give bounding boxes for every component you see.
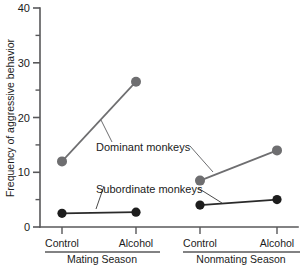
subordinate-point-nonmating-control (195, 201, 204, 210)
x-label-mating-control: Control (45, 237, 79, 249)
y-tick-label-40: 40 (18, 2, 30, 14)
annotation-subordinate-monkeys: Subordinate monkeys (96, 183, 203, 195)
aggressive-behavior-line-chart: 40 30 20 10 0 Frequency of aggressive be… (0, 0, 304, 266)
y-tick-label-30: 30 (18, 57, 30, 69)
subordinate-line-nonmating (200, 200, 277, 206)
annotation-dominant-monkeys: Dominant monkeys (96, 141, 191, 153)
leader-dominant-mating (101, 120, 112, 142)
subordinate-point-mating-control (57, 209, 66, 218)
subordinate-line-mating (62, 212, 136, 213)
dominant-line-nonmating (200, 150, 277, 180)
y-axis-title: Frequency of aggressive behavior (4, 38, 16, 197)
subordinate-point-mating-alcohol (131, 208, 140, 217)
x-label-nonmating-control: Control (183, 237, 217, 249)
dominant-point-mating-control (57, 156, 67, 166)
leader-dominant-nonmating (190, 146, 213, 172)
y-tick-label-0: 0 (24, 221, 30, 233)
y-tick-label-10: 10 (18, 166, 30, 178)
dominant-point-mating-alcohol (131, 77, 141, 87)
dominant-point-nonmating-alcohol (272, 145, 282, 155)
x-group-label-nonmating: Nonmating Season (196, 253, 285, 265)
y-tick-label-20: 20 (18, 112, 30, 124)
x-group-label-mating: Mating Season (67, 253, 137, 265)
chart-figure: 40 30 20 10 0 Frequency of aggressive be… (0, 0, 304, 266)
x-label-nonmating-alcohol: Alcohol (260, 237, 294, 249)
x-label-mating-alcohol: Alcohol (119, 237, 153, 249)
subordinate-point-nonmating-alcohol (272, 195, 281, 204)
